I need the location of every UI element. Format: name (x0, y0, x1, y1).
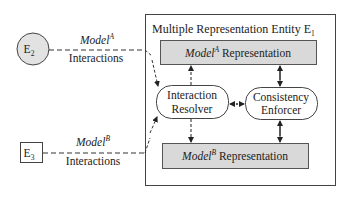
model-b-interactions-label: ModelB (75, 134, 110, 148)
svg-text:ModelB Representation: ModelB Representation (181, 148, 288, 163)
consistency-enforcer: Consistency Enforcer (246, 88, 318, 120)
entity-e2: E2 (17, 33, 49, 65)
interaction-resolver: Interaction Resolver (157, 86, 229, 119)
svg-text:ModelA Representation: ModelA Representation (184, 45, 291, 60)
svg-text:Interaction: Interaction (167, 89, 217, 101)
svg-text:Resolver: Resolver (172, 103, 213, 115)
mre-diagram: Multiple Representation Entity E1 ModelA… (0, 0, 341, 199)
entity-e1-title: Multiple Representation Entity E1 (152, 22, 315, 38)
model-a-interactions-label: ModelA (79, 32, 114, 46)
svg-text:Consistency: Consistency (253, 91, 309, 104)
model-b-representation: ModelB Representation (163, 144, 309, 169)
entity-e3: E3 (21, 143, 43, 163)
model-a-representation: ModelA Representation (161, 41, 317, 65)
model-b-interactions-text: Interactions (66, 155, 121, 167)
svg-text:Enforcer: Enforcer (261, 104, 301, 116)
model-a-interactions-text: Interactions (69, 52, 124, 64)
